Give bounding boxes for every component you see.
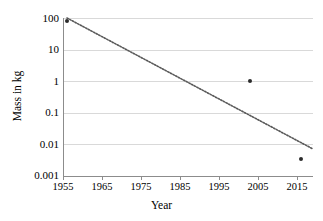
y-tick-label-0.01: 0.01 (40, 139, 59, 150)
x-tick-2015 (297, 176, 298, 180)
y-axis-line (63, 18, 64, 177)
x-axis-title: Year (0, 199, 323, 211)
y-tick-label-0.001: 0.001 (34, 170, 59, 181)
x-axis-line (63, 176, 313, 177)
x-tick-1965 (102, 176, 103, 180)
y-tick-label-1: 1 (54, 76, 60, 87)
gridline-10 (63, 50, 313, 51)
gridline-0.1 (63, 113, 313, 114)
x-tick-1975 (141, 176, 142, 180)
x-tick-label-1955: 1955 (43, 181, 83, 193)
x-tick-1985 (180, 176, 181, 180)
x-tick-label-1965: 1965 (82, 181, 122, 193)
y-tick-label-0.1: 0.1 (45, 107, 59, 118)
x-tick-2005 (258, 176, 259, 180)
data-point-1[interactable] (65, 19, 69, 23)
y-axis-title: Mass in kg (11, 41, 23, 151)
gridline-0.01 (63, 144, 313, 145)
data-point-3[interactable] (299, 157, 303, 161)
gridline-1 (63, 81, 313, 82)
x-tick-label-2015: 2015 (277, 181, 317, 193)
data-point-2[interactable] (248, 79, 252, 83)
y-tick-label-10: 10 (48, 44, 59, 55)
y-tick-label-100: 100 (43, 13, 60, 24)
x-tick-1955 (63, 176, 64, 180)
plot-area (63, 18, 313, 176)
x-tick-1995 (219, 176, 220, 180)
x-tick-label-1995: 1995 (199, 181, 239, 193)
x-tick-label-1975: 1975 (121, 181, 161, 193)
x-tick-label-2005: 2005 (238, 181, 278, 193)
x-tick-label-1985: 1985 (160, 181, 200, 193)
chart-container: 100 10 1 0.1 0.01 0.001 1955 1965 1975 1… (0, 0, 323, 221)
gridline-100 (63, 18, 313, 19)
